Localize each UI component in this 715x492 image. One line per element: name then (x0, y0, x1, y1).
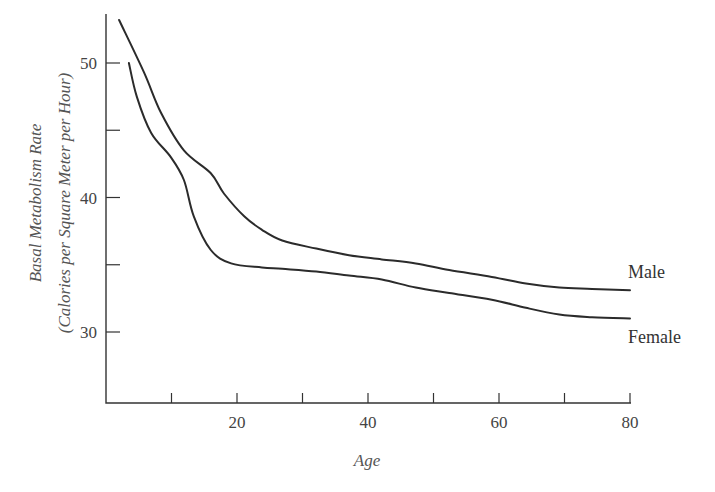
x-tick-label: 80 (622, 413, 639, 432)
x-ticks: 20406080 (172, 393, 639, 432)
series-line-male (119, 20, 630, 290)
series-label-female: Female (628, 327, 681, 347)
axes (106, 14, 631, 403)
y-tick-label: 50 (80, 54, 97, 73)
series-line-female (129, 63, 630, 319)
series-layer (119, 20, 630, 319)
y-axis-title-line2: (Calories per Square Meter per Hour) (55, 72, 74, 333)
x-tick-label: 60 (491, 413, 508, 432)
y-axis-title: Basal Metabolism Rate (Calories per Squa… (26, 72, 74, 333)
x-tick-label: 20 (229, 413, 246, 432)
y-tick-label: 40 (80, 189, 97, 208)
y-tick-label: 30 (80, 323, 97, 342)
x-axis-title: Age (353, 451, 381, 470)
y-ticks: 304050 (80, 54, 120, 342)
bmr-chart: Basal Metabolism Rate (Calories per Squa… (0, 0, 715, 492)
series-label-male: Male (628, 262, 665, 282)
x-tick-label: 40 (360, 413, 377, 432)
y-axis-title-line1: Basal Metabolism Rate (26, 123, 45, 282)
